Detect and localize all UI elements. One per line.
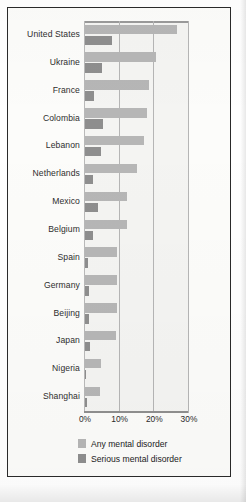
page-edge-shadow-bottom: [0, 484, 246, 502]
bar-any-mental-disorder: [85, 247, 117, 257]
category-label: Spain: [8, 244, 80, 272]
bar-any-mental-disorder: [85, 359, 101, 369]
category-label: France: [8, 77, 80, 105]
category-label: Nigeria: [8, 355, 80, 383]
bar-any-mental-disorder: [85, 108, 147, 118]
chart-row: Spain: [8, 244, 232, 272]
chart-row: Nigeria: [8, 355, 232, 383]
chart-row: France: [8, 77, 232, 105]
bar-serious-mental-disorder: [85, 231, 93, 241]
bar-serious-mental-disorder: [85, 314, 89, 324]
category-label: Germany: [8, 272, 80, 300]
chart-row: Lebanon: [8, 132, 232, 160]
category-label: Lebanon: [8, 132, 80, 160]
chart-row: United States: [8, 21, 232, 49]
chart-row: Netherlands: [8, 160, 232, 188]
bar-serious-mental-disorder: [85, 286, 89, 296]
bar-serious-mental-disorder: [85, 370, 86, 380]
chart-row: Belgium: [8, 216, 232, 244]
bar-serious-mental-disorder: [85, 175, 93, 185]
legend-label: Serious mental disorder: [91, 454, 182, 464]
bar-any-mental-disorder: [85, 387, 100, 397]
bar-serious-mental-disorder: [85, 203, 98, 213]
category-label: Japan: [8, 327, 80, 355]
bar-any-mental-disorder: [85, 80, 149, 90]
scanned-page: United StatesUkraineFranceColombiaLebano…: [0, 0, 246, 502]
x-tick-label: 10%: [111, 414, 128, 424]
x-axis-tick-labels: 0%10%20%30%: [8, 414, 232, 430]
bar-any-mental-disorder: [85, 303, 117, 313]
chart-row: Mexico: [8, 188, 232, 216]
x-tick-label: 30%: [181, 414, 198, 424]
category-label: Beijing: [8, 300, 80, 328]
chart-row: Ukraine: [8, 49, 232, 77]
chart-frame: United StatesUkraineFranceColombiaLebano…: [7, 7, 231, 477]
legend-swatch: [78, 454, 86, 463]
category-label: Ukraine: [8, 49, 80, 77]
bar-serious-mental-disorder: [85, 119, 103, 129]
bar-any-mental-disorder: [85, 275, 117, 285]
bar-serious-mental-disorder: [85, 63, 102, 73]
bar-serious-mental-disorder: [85, 398, 87, 408]
bar-any-mental-disorder: [85, 25, 177, 35]
category-label: Colombia: [8, 105, 80, 133]
bar-serious-mental-disorder: [85, 36, 112, 46]
chart-row: Shanghai: [8, 383, 232, 411]
bar-serious-mental-disorder: [85, 258, 88, 268]
category-label: Mexico: [8, 188, 80, 216]
bar-any-mental-disorder: [85, 136, 144, 146]
bar-serious-mental-disorder: [85, 147, 101, 157]
legend-swatch: [78, 439, 86, 448]
bar-any-mental-disorder: [85, 220, 127, 230]
chart-row: Japan: [8, 327, 232, 355]
bar-any-mental-disorder: [85, 331, 116, 341]
page-edge-shadow-right: [240, 0, 246, 502]
chart-legend: Any mental disorderSerious mental disord…: [78, 436, 228, 466]
chart-row: Colombia: [8, 105, 232, 133]
bar-any-mental-disorder: [85, 52, 156, 62]
bar-any-mental-disorder: [85, 164, 137, 174]
category-label: Netherlands: [8, 160, 80, 188]
x-tick-label: 0%: [79, 414, 91, 424]
bar-rows: United StatesUkraineFranceColombiaLebano…: [8, 21, 232, 411]
x-tick-label: 20%: [146, 414, 163, 424]
legend-item: Serious mental disorder: [78, 451, 228, 466]
category-label: Belgium: [8, 216, 80, 244]
legend-label: Any mental disorder: [91, 439, 167, 449]
category-label: Shanghai: [8, 383, 80, 411]
chart-row: Germany: [8, 272, 232, 300]
bar-chart: United StatesUkraineFranceColombiaLebano…: [8, 8, 232, 478]
bar-any-mental-disorder: [85, 192, 127, 202]
bar-serious-mental-disorder: [85, 342, 90, 352]
chart-row: Beijing: [8, 300, 232, 328]
legend-item: Any mental disorder: [78, 436, 228, 451]
bar-serious-mental-disorder: [85, 91, 94, 101]
category-label: United States: [8, 21, 80, 49]
x-axis-line: [84, 411, 188, 413]
